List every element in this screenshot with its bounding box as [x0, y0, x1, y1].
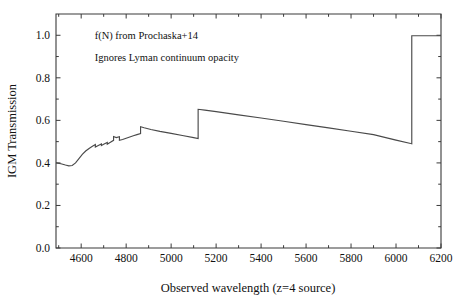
x-tick-label: 4800 [115, 252, 138, 264]
y-axis-tick-labels: 0.00.20.40.60.81.0 [36, 29, 51, 254]
x-tick-label: 5000 [160, 252, 183, 264]
x-tick-label: 5200 [205, 252, 228, 264]
y-axis-title: IGM Transmission [5, 83, 19, 178]
y-tick-label: 0.8 [36, 72, 51, 84]
plot-annotations: f(N) from Prochaska+14Ignores Lyman cont… [95, 30, 240, 63]
x-tick-label: 6000 [385, 252, 408, 264]
igm-transmission-figure: 460048005000520054005600580060006200 0.0… [0, 0, 458, 301]
annotation-text-1: Ignores Lyman continuum opacity [95, 52, 240, 63]
y-tick-label: 0.2 [36, 199, 51, 211]
y-tick-label: 1.0 [36, 29, 51, 41]
y-tick-label: 0.0 [36, 242, 51, 254]
y-tick-label: 0.6 [36, 114, 51, 126]
x-tick-label: 5600 [295, 252, 318, 264]
x-axis-title: Observed wavelength (z=4 source) [161, 281, 336, 295]
x-tick-label: 6200 [430, 252, 453, 264]
y-tick-label: 0.4 [36, 157, 51, 169]
x-tick-label: 5800 [340, 252, 363, 264]
x-axis-tick-labels: 460048005000520054005600580060006200 [70, 252, 453, 264]
plot-frame [56, 14, 441, 248]
x-axis-ticks [59, 14, 441, 248]
x-tick-label: 5400 [250, 252, 273, 264]
chart-canvas: 460048005000520054005600580060006200 0.0… [0, 0, 458, 301]
axes-frame [56, 14, 441, 248]
y-axis-ticks [56, 35, 441, 248]
annotation-text-0: f(N) from Prochaska+14 [95, 30, 199, 42]
x-tick-label: 4600 [70, 252, 93, 264]
